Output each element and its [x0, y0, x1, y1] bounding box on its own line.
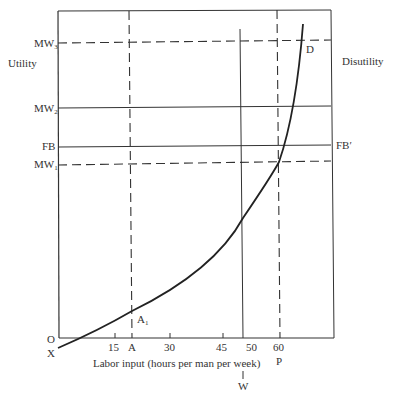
- p-label: P: [276, 356, 282, 367]
- disutility-curve: [58, 24, 303, 348]
- w-line: [240, 29, 243, 338]
- tick-label-60: 60: [273, 342, 284, 353]
- tick-label-a: A: [128, 342, 136, 353]
- mw2-line: [58, 106, 331, 108]
- left-axis: [58, 11, 59, 338]
- d-label: D: [306, 44, 314, 55]
- right-border: [331, 10, 334, 338]
- mw3-line: [58, 40, 331, 43]
- mw1-line: [58, 161, 331, 165]
- a-line: [129, 11, 132, 338]
- origin-label: O: [47, 334, 55, 345]
- x-label: X: [47, 348, 55, 359]
- p-line: [277, 10, 280, 338]
- mw1-label: MW1: [34, 159, 58, 172]
- disutility-label: Disutility: [342, 56, 384, 67]
- utility-label: Utility: [8, 58, 37, 69]
- a1-label: A1: [137, 314, 148, 327]
- top-border: [58, 10, 331, 11]
- x-axis-title: Labor input (hours per man per week): [93, 358, 260, 369]
- tick-label-30: 30: [164, 342, 175, 353]
- fb-prime-label: FB′: [336, 140, 352, 151]
- diagram-canvas: [0, 0, 398, 403]
- w-label: W: [238, 381, 248, 392]
- fb-line: [58, 145, 331, 147]
- mw3-label: MW3: [34, 38, 58, 51]
- fb-label: FB: [42, 141, 55, 152]
- tick-label-50: 50: [246, 342, 257, 353]
- tick-label-15: 15: [108, 342, 119, 353]
- tick-label-45: 45: [216, 342, 227, 353]
- mw2-label: MW2: [34, 103, 58, 116]
